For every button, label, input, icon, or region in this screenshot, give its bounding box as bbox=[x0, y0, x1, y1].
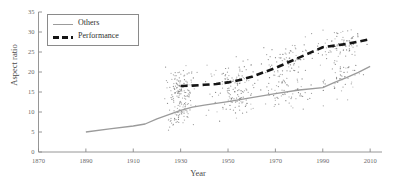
scatter-point bbox=[187, 82, 188, 83]
scatter-point bbox=[227, 90, 228, 91]
scatter-point bbox=[282, 74, 283, 75]
scatter-point bbox=[171, 94, 172, 95]
scatter-layer bbox=[164, 29, 368, 131]
scatter-point bbox=[169, 109, 170, 110]
scatter-point bbox=[184, 103, 185, 104]
scatter-point bbox=[243, 92, 244, 93]
scatter-point bbox=[191, 81, 192, 82]
scatter-point bbox=[193, 77, 194, 78]
scatter-point bbox=[300, 59, 301, 60]
scatter-point bbox=[191, 72, 192, 73]
scatter-point bbox=[339, 70, 340, 71]
scatter-point bbox=[179, 95, 180, 96]
scatter-point bbox=[209, 94, 210, 95]
scatter-point bbox=[242, 113, 243, 114]
scatter-point bbox=[230, 109, 231, 110]
scatter-point bbox=[184, 98, 185, 99]
scatter-point bbox=[339, 78, 340, 79]
scatter-point bbox=[253, 87, 254, 88]
scatter-point bbox=[219, 121, 220, 122]
scatter-point bbox=[291, 96, 292, 97]
scatter-point bbox=[334, 87, 335, 88]
scatter-point bbox=[342, 37, 343, 38]
scatter-point bbox=[265, 72, 266, 73]
scatter-point bbox=[294, 63, 295, 64]
scatter-point bbox=[300, 93, 301, 94]
scatter-point bbox=[189, 94, 190, 95]
scatter-point bbox=[280, 57, 281, 58]
scatter-point bbox=[328, 52, 329, 53]
scatter-point bbox=[335, 72, 336, 73]
scatter-point bbox=[357, 36, 358, 37]
scatter-point bbox=[188, 72, 189, 73]
scatter-point bbox=[282, 70, 283, 71]
scatter-point bbox=[237, 83, 238, 84]
scatter-point bbox=[347, 40, 348, 41]
scatter-point bbox=[231, 98, 232, 99]
scatter-point bbox=[354, 55, 355, 56]
scatter-point bbox=[270, 56, 271, 57]
scatter-point bbox=[349, 48, 350, 49]
scatter-point bbox=[233, 89, 234, 90]
scatter-point bbox=[226, 109, 227, 110]
scatter-point bbox=[179, 89, 180, 90]
scatter-point bbox=[288, 85, 289, 86]
scatter-point bbox=[363, 74, 364, 75]
scatter-point bbox=[343, 41, 344, 42]
scatter-point bbox=[229, 105, 230, 106]
scatter-point bbox=[355, 65, 356, 66]
scatter-point bbox=[185, 106, 186, 107]
scatter-point bbox=[300, 95, 301, 96]
scatter-point bbox=[186, 111, 187, 112]
scatter-point bbox=[295, 98, 296, 99]
scatter-point bbox=[208, 110, 209, 111]
scatter-point bbox=[288, 96, 289, 97]
scatter-point bbox=[171, 122, 172, 123]
chart-figure: Others Performance Aspect ratio Year 051… bbox=[0, 0, 398, 181]
scatter-point bbox=[283, 94, 284, 95]
scatter-point bbox=[228, 99, 229, 100]
scatter-point bbox=[286, 70, 287, 71]
scatter-point bbox=[177, 79, 178, 80]
scatter-point bbox=[175, 119, 176, 120]
scatter-point bbox=[336, 99, 337, 100]
scatter-point bbox=[299, 95, 300, 96]
scatter-point bbox=[181, 89, 182, 90]
scatter-point bbox=[283, 80, 284, 81]
scatter-point bbox=[227, 79, 228, 80]
scatter-point bbox=[173, 86, 174, 87]
scatter-point bbox=[340, 32, 341, 33]
scatter-point bbox=[343, 40, 344, 41]
scatter-point bbox=[290, 64, 291, 65]
scatter-point bbox=[292, 45, 293, 46]
scatter-point bbox=[352, 70, 353, 71]
scatter-point bbox=[293, 64, 294, 65]
scatter-point bbox=[176, 91, 177, 92]
scatter-point bbox=[349, 40, 350, 41]
scatter-point bbox=[326, 54, 327, 55]
scatter-point bbox=[335, 46, 336, 47]
scatter-point bbox=[307, 99, 308, 100]
scatter-point bbox=[246, 89, 247, 90]
scatter-point bbox=[239, 67, 240, 68]
scatter-point bbox=[246, 99, 247, 100]
scatter-point bbox=[291, 68, 292, 69]
scatter-point bbox=[185, 96, 186, 97]
scatter-point bbox=[236, 56, 237, 57]
scatter-point bbox=[305, 70, 306, 71]
scatter-point bbox=[302, 51, 303, 52]
scatter-point bbox=[178, 116, 179, 117]
scatter-point bbox=[185, 81, 186, 82]
scatter-point bbox=[294, 45, 295, 46]
scatter-point bbox=[175, 78, 176, 79]
scatter-point bbox=[225, 78, 226, 79]
scatter-point bbox=[251, 93, 252, 94]
scatter-point bbox=[257, 79, 258, 80]
scatter-point bbox=[318, 43, 319, 44]
scatter-point bbox=[187, 104, 188, 105]
scatter-point bbox=[184, 95, 185, 96]
scatter-point bbox=[334, 38, 335, 39]
scatter-point bbox=[189, 109, 190, 110]
scatter-point bbox=[239, 103, 240, 104]
x-axis-label: Year bbox=[168, 168, 228, 178]
